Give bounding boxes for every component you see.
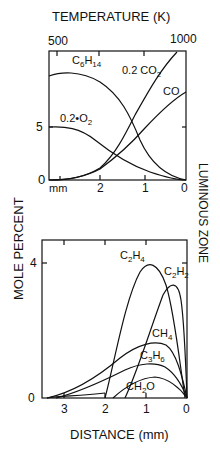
label-c3h6: C3H6 <box>140 350 165 364</box>
curve-ch4 <box>47 343 187 398</box>
curve-co <box>49 92 186 180</box>
label-c2h4: C2H4 <box>120 250 145 264</box>
label-co2: 0.2 CO2 <box>122 65 161 79</box>
label-ch2o: CH2O <box>126 381 155 395</box>
bottom-plot-frame <box>42 240 187 398</box>
label-co: CO <box>163 86 180 97</box>
label-ch4: CH4 <box>152 328 172 342</box>
label-o2: 0.2•O2 <box>60 113 92 127</box>
label-c2h2: C2H2 <box>164 266 189 280</box>
label-c6h14: C6H14 <box>72 55 101 69</box>
chart-canvas <box>0 0 220 450</box>
